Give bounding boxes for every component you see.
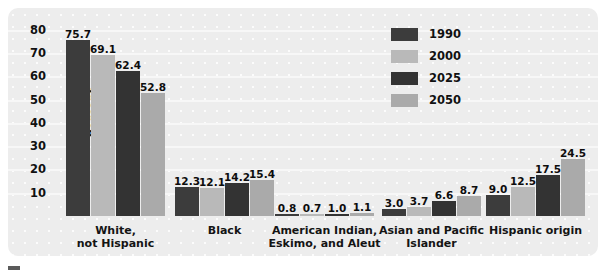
bar-rect	[325, 214, 349, 216]
bar-rect	[66, 40, 90, 216]
bar-value-label: 1.0	[328, 202, 347, 214]
legend-item[interactable]: 2050	[391, 92, 461, 108]
bar-rect	[457, 196, 481, 216]
legend-label: 2025	[429, 71, 461, 85]
bar-rect	[536, 175, 560, 216]
bar-rect	[432, 201, 456, 216]
bar[interactable]: 0.8	[275, 214, 299, 216]
bar-value-label: 12.1	[199, 176, 225, 188]
y-tick-label: 80	[20, 23, 46, 37]
bar-value-label: 24.5	[560, 147, 586, 159]
bar-rect	[382, 209, 406, 216]
bar-rect	[511, 187, 535, 216]
legend-item[interactable]: 1990	[391, 26, 461, 42]
bar-value-label: 8.7	[460, 184, 479, 196]
bar-rect	[91, 55, 115, 216]
bar[interactable]: 62.4	[116, 71, 140, 216]
bar[interactable]: 15.4	[250, 180, 274, 216]
legend-swatch	[391, 50, 418, 63]
bar[interactable]: 75.7	[66, 40, 90, 216]
y-tick-label: 40	[20, 116, 46, 130]
corner-mark	[8, 266, 20, 270]
bar-value-label: 75.7	[65, 28, 91, 40]
chart-panel: Percent 1020304050607080 75.769.162.452.…	[8, 8, 598, 256]
bar-value-label: 62.4	[115, 59, 141, 71]
bar-value-label: 0.7	[303, 202, 322, 214]
bar[interactable]: 17.5	[536, 175, 560, 216]
bar[interactable]: 1.1	[350, 213, 374, 216]
bar-rect	[175, 187, 199, 216]
bar-rect	[275, 214, 299, 216]
y-tick-label: 50	[20, 93, 46, 107]
bar-value-label: 3.7	[410, 195, 429, 207]
bar-value-label: 17.5	[535, 163, 561, 175]
bar-rect	[350, 213, 374, 216]
bar-value-label: 3.0	[385, 197, 404, 209]
legend-swatch	[391, 72, 418, 85]
bar[interactable]: 12.3	[175, 187, 199, 216]
bar-value-label: 14.2	[224, 171, 250, 183]
y-tick-label: 60	[20, 69, 46, 83]
bar-value-label: 9.0	[489, 183, 508, 195]
bar-rect	[200, 188, 224, 216]
bar-value-label: 15.4	[249, 168, 275, 180]
legend-item[interactable]: 2025	[391, 70, 461, 86]
bar[interactable]: 12.5	[511, 187, 535, 216]
y-tick-label: 30	[20, 139, 46, 153]
bar-rect	[116, 71, 140, 216]
y-tick-label: 70	[20, 46, 46, 60]
plot-area: Percent 1020304050607080 75.769.162.452.…	[52, 18, 592, 216]
category-label: Hispanic origin	[471, 224, 599, 237]
bar[interactable]: 9.0	[486, 195, 510, 216]
bar-value-label: 52.8	[140, 81, 166, 93]
bar[interactable]: 8.7	[457, 196, 481, 216]
bar-rect	[486, 195, 510, 216]
chart-screenshot: Percent 1020304050607080 75.769.162.452.…	[0, 0, 606, 279]
bar[interactable]: 3.0	[382, 209, 406, 216]
bar[interactable]: 3.7	[407, 207, 431, 216]
legend-item[interactable]: 2000	[391, 48, 461, 64]
bar[interactable]: 6.6	[432, 201, 456, 216]
bar-value-label: 6.6	[435, 189, 454, 201]
bar-rect	[141, 93, 165, 216]
bar-rect	[561, 159, 585, 216]
bar-value-label: 12.3	[174, 175, 200, 187]
legend-swatch	[391, 28, 418, 41]
bar-rect	[407, 207, 431, 216]
legend: 1990200020252050	[391, 26, 461, 114]
bar-value-label: 1.1	[353, 201, 372, 213]
y-tick-label: 10	[20, 186, 46, 200]
bar[interactable]: 52.8	[141, 93, 165, 216]
legend-swatch	[391, 94, 418, 107]
bar[interactable]: 0.7	[300, 214, 324, 216]
legend-label: 1990	[429, 27, 461, 41]
bar[interactable]: 69.1	[91, 55, 115, 216]
bar-rect	[225, 183, 249, 216]
bar[interactable]: 12.1	[200, 188, 224, 216]
bar-value-label: 0.8	[278, 202, 297, 214]
legend-label: 2000	[429, 49, 461, 63]
y-tick-label: 20	[20, 162, 46, 176]
bar[interactable]: 24.5	[561, 159, 585, 216]
bar[interactable]: 14.2	[225, 183, 249, 216]
bar[interactable]: 1.0	[325, 214, 349, 216]
bar-value-label: 69.1	[90, 43, 116, 55]
bar-rect	[300, 214, 324, 216]
bar-value-label: 12.5	[510, 175, 536, 187]
legend-label: 2050	[429, 93, 461, 107]
bar-rect	[250, 180, 274, 216]
